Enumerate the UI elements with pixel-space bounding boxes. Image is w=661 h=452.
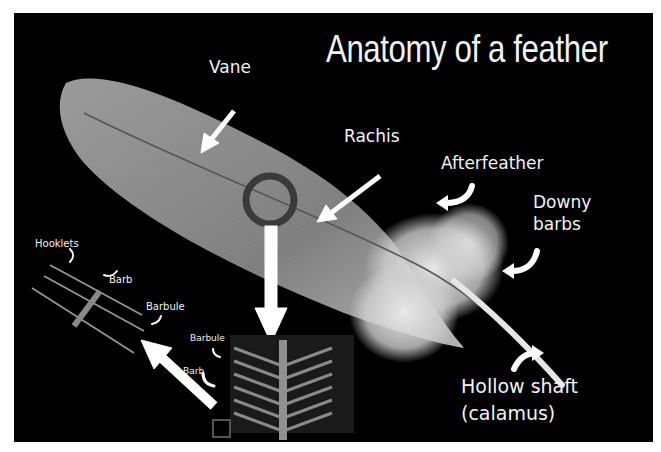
label-barbule-lower: Barbule (190, 334, 225, 343)
label-downy-barbs-1: Downy (533, 194, 591, 211)
label-rachis: Rachis (344, 128, 400, 145)
calamus (454, 281, 562, 385)
label-hooklets: Hooklets (35, 239, 79, 249)
label-afterfeather: Afterfeather (441, 155, 544, 172)
label-barb-lower: Barb (183, 367, 204, 376)
label-barb-upper: Barb (109, 275, 132, 285)
label-downy-barbs-2: barbs (533, 216, 581, 233)
label-barbule-upper: Barbule (146, 302, 185, 312)
barb-detail (213, 335, 354, 440)
label-hollow-shaft-2: (calamus) (461, 404, 555, 423)
label-hollow-shaft-1: Hollow shaft (461, 377, 578, 396)
page-title: Anatomy of a feather (326, 29, 608, 68)
diagram-panel: Anatomy of a feather Vane Rachis Afterfe… (14, 13, 653, 442)
label-vane: Vane (209, 59, 251, 76)
